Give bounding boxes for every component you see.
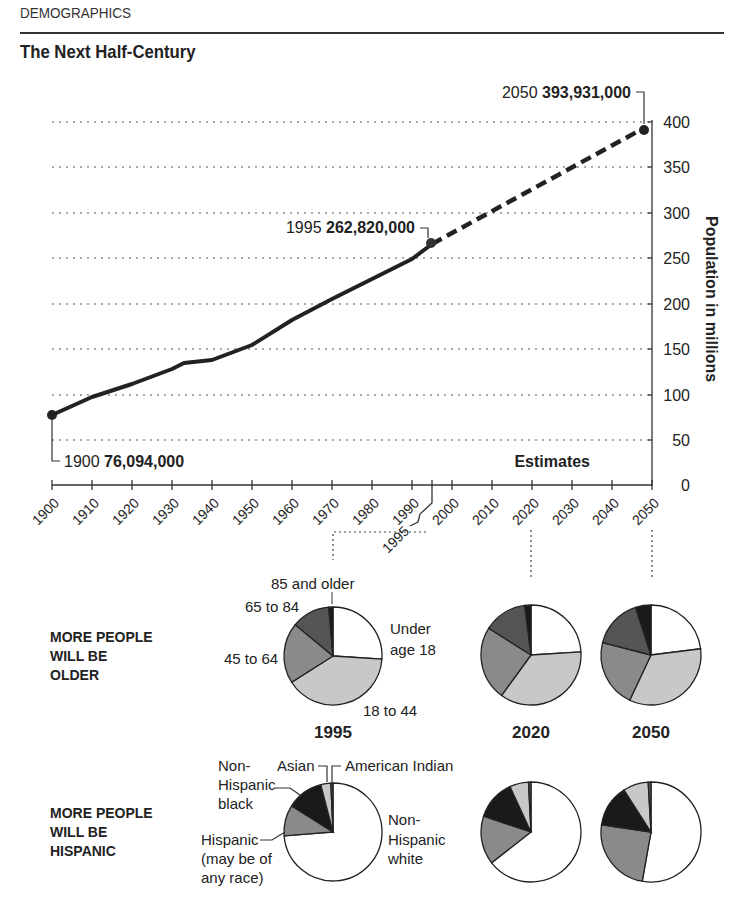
svg-text:350: 350 [663,159,690,176]
svg-text:2020: 2020 [512,723,550,742]
svg-text:Hispanic: Hispanic [218,776,276,793]
age-pie-1995 [284,607,382,705]
svg-text:1910: 1910 [69,495,102,528]
svg-text:OLDER: OLDER [50,667,99,683]
x-tick-labels: 1900 1910 1920 1930 1940 1950 1960 1970 … [29,495,662,556]
svg-text:HISPANIC: HISPANIC [50,843,116,859]
svg-text:85 and older: 85 and older [271,575,354,592]
y-axis-label: Population in millions [703,216,720,382]
svg-text:Non-: Non- [218,757,251,774]
point-1995 [426,238,436,248]
svg-text:65 to 84: 65 to 84 [245,598,299,615]
race-pie-1995 [284,783,382,881]
svg-text:1990: 1990 [389,495,422,528]
svg-text:250: 250 [663,250,690,267]
svg-text:2030: 2030 [549,495,582,528]
pie-slice [651,605,701,655]
svg-text:2050: 2050 [629,495,662,528]
svg-text:1900: 1900 [29,495,62,528]
estimates-label: Estimates [514,453,590,470]
svg-text:age 18: age 18 [390,641,436,658]
svg-text:2010: 2010 [469,495,502,528]
svg-text:50: 50 [672,432,690,449]
y-tick-labels: 400 350 300 250 200 150 100 50 0 [663,114,690,494]
ann-1995: 1995 262,820,000 [286,219,415,236]
gridlines [52,122,650,440]
svg-text:100: 100 [663,387,690,404]
svg-text:Hispanic: Hispanic [201,831,259,848]
population-line-estimates [432,128,644,244]
svg-text:150: 150 [663,341,690,358]
age-pies [284,605,701,705]
ann-2050: 2050 393,931,000 [502,84,631,101]
race-pie-2020 [481,782,581,882]
svg-text:1980: 1980 [349,495,382,528]
age-year-labels: 1995 2020 2050 [314,723,670,742]
svg-text:Under: Under [390,620,431,637]
pie-slice [333,607,382,659]
race-section-heading: MORE PEOPLE WILL BE HISPANIC [50,805,153,859]
svg-text:1995: 1995 [314,723,352,742]
svg-text:0: 0 [681,477,690,494]
age-section-heading: MORE PEOPLE WILL BE OLDER [50,629,153,683]
svg-text:1920: 1920 [109,495,142,528]
pie-slice [531,605,581,655]
svg-text:black: black [218,795,254,812]
tick-1995: 1995 [379,523,412,556]
svg-text:(may be of: (may be of [201,850,273,867]
svg-text:WILL BE: WILL BE [50,824,107,840]
age-pie-2050 [601,605,701,705]
svg-text:2040: 2040 [589,495,622,528]
svg-text:45 to 64: 45 to 64 [224,650,278,667]
svg-text:MORE PEOPLE: MORE PEOPLE [50,805,153,821]
age-pie-2020 [481,605,581,705]
svg-text:300: 300 [663,205,690,222]
svg-text:1960: 1960 [269,495,302,528]
population-line-actual [52,244,432,415]
svg-text:1940: 1940 [189,495,222,528]
svg-text:2020: 2020 [509,495,542,528]
point-1900 [47,410,57,420]
svg-text:WILL BE: WILL BE [50,648,107,664]
svg-text:Non-: Non- [388,811,421,828]
pie-slice [601,825,651,881]
svg-text:any race): any race) [201,869,264,886]
svg-text:200: 200 [663,296,690,313]
svg-text:American Indian: American Indian [345,757,453,774]
svg-text:2000: 2000 [429,495,462,528]
svg-text:400: 400 [663,114,690,131]
svg-text:18 to 44: 18 to 44 [363,702,417,719]
point-2050 [639,125,649,135]
ann-1900: 1900 76,094,000 [64,453,184,470]
pie-connectors [333,530,652,578]
svg-text:1950: 1950 [229,495,262,528]
y-axis [648,120,652,486]
svg-text:1970: 1970 [309,495,342,528]
svg-text:1930: 1930 [149,495,182,528]
race-pies [284,782,701,882]
svg-text:white: white [387,850,423,867]
svg-text:2050: 2050 [632,723,670,742]
svg-text:Hispanic: Hispanic [388,831,446,848]
svg-text:MORE PEOPLE: MORE PEOPLE [50,629,153,645]
chart-canvas: 400 350 300 250 200 150 100 50 0 Populat… [0,0,736,898]
svg-text:Asian: Asian [277,757,315,774]
race-pie-2050 [601,782,701,882]
